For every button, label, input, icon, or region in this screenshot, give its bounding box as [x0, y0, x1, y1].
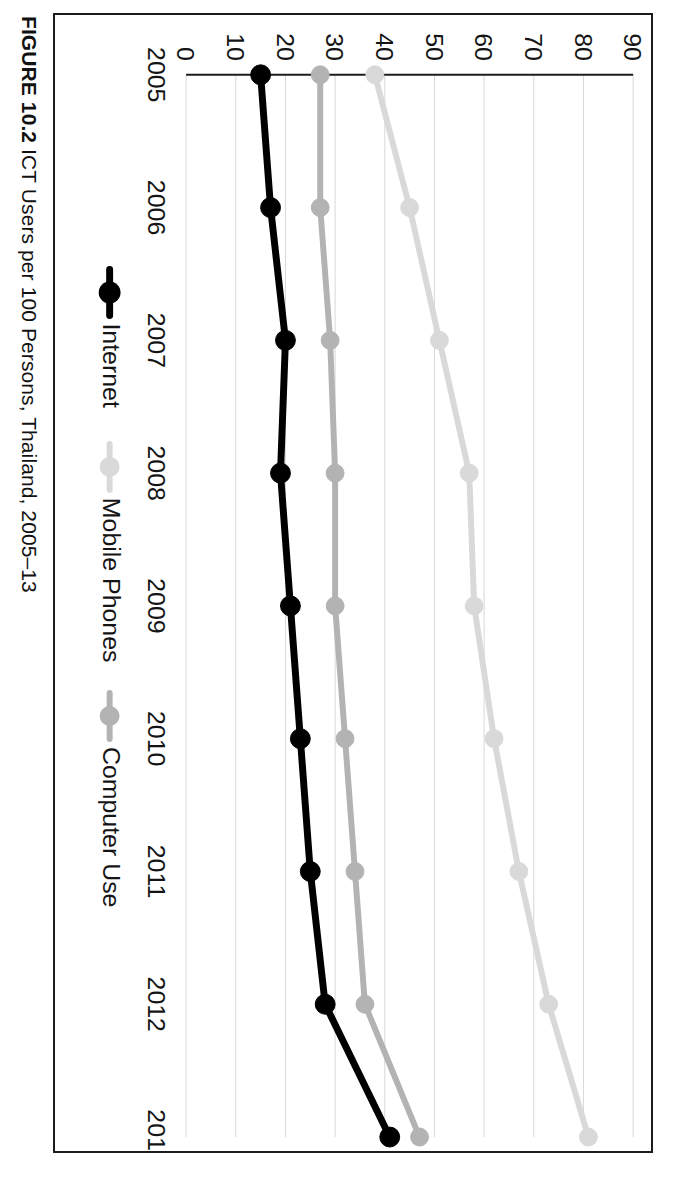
- y-tick-label: 80: [570, 33, 598, 61]
- x-tick-label: 2013: [143, 1109, 171, 1151]
- data-point: [290, 729, 310, 749]
- legend-label: Computer Use: [98, 747, 126, 908]
- data-point: [311, 199, 329, 217]
- figure-caption: FIGURE 10.2 ICT Users per 100 Persons, T…: [17, 16, 41, 1166]
- series-internet: [251, 65, 400, 1147]
- y-tick-label: 40: [371, 33, 399, 61]
- data-point: [271, 463, 291, 483]
- x-tick-labels: 200520062007200820092010201120122013: [143, 47, 171, 1151]
- data-point: [579, 1128, 597, 1146]
- x-tick-label: 2008: [143, 445, 171, 500]
- data-point: [366, 66, 384, 84]
- data-point: [411, 1128, 429, 1146]
- line-chart: 200520062007200820092010201120122013 010…: [55, 15, 651, 1151]
- data-point: [460, 464, 478, 482]
- figure-rotator: 200520062007200820092010201120122013 010…: [0, 0, 675, 1191]
- series-mobile-phones: [366, 66, 597, 1146]
- data-point: [380, 1127, 400, 1147]
- y-tick-label: 0: [172, 47, 200, 61]
- legend-item-mobile-phones: Mobile Phones: [98, 444, 126, 663]
- chart-legend: InternetMobile PhonesComputer Use: [98, 270, 126, 908]
- x-tick-label: 2012: [143, 977, 171, 1032]
- data-point: [321, 331, 339, 349]
- legend-swatch-marker: [100, 457, 120, 477]
- data-point: [326, 597, 344, 615]
- data-point: [251, 65, 271, 85]
- x-tick-label: 2010: [143, 711, 171, 766]
- data-point: [276, 330, 296, 350]
- data-point: [465, 597, 483, 615]
- x-tick-label: 2007: [143, 313, 171, 368]
- y-tick-label: 70: [520, 33, 548, 61]
- figure-caption-text: ICT Users per 100 Persons, Thailand, 200…: [18, 149, 41, 593]
- data-point: [300, 862, 320, 882]
- series-computer-use: [311, 66, 428, 1146]
- data-point: [326, 464, 344, 482]
- series-layer: [251, 65, 598, 1147]
- legend-label: Mobile Phones: [98, 498, 126, 663]
- data-point: [311, 66, 329, 84]
- plot-area: 200520062007200820092010201120122013 010…: [55, 15, 651, 1151]
- data-point: [356, 995, 374, 1013]
- y-tick-label: 10: [222, 33, 250, 61]
- figure-caption-label: FIGURE 10.2: [18, 16, 41, 143]
- legend-swatch-marker: [99, 282, 121, 304]
- y-tick-labels: 0102030405060708090: [172, 33, 647, 61]
- data-point: [540, 995, 558, 1013]
- data-point: [336, 730, 354, 748]
- data-point: [315, 994, 335, 1014]
- legend-label: Internet: [98, 323, 126, 408]
- gridlines: [186, 75, 633, 1137]
- data-point: [510, 863, 528, 881]
- legend-item-computer-use: Computer Use: [98, 693, 126, 907]
- y-tick-label: 30: [321, 33, 349, 61]
- chart-frame: 200520062007200820092010201120122013 010…: [53, 13, 653, 1153]
- data-point: [261, 198, 281, 218]
- y-tick-label: 60: [470, 33, 498, 61]
- legend-swatch-marker: [100, 706, 120, 726]
- data-point: [430, 331, 448, 349]
- y-tick-label: 90: [619, 33, 647, 61]
- x-tick-label: 2009: [143, 578, 171, 633]
- x-tick-label: 2005: [143, 47, 171, 102]
- legend-item-internet: Internet: [98, 270, 126, 408]
- x-tick-label: 2006: [143, 180, 171, 235]
- data-point: [485, 730, 503, 748]
- figure: 200520062007200820092010201120122013 010…: [0, 0, 675, 1191]
- y-tick-label: 50: [421, 33, 449, 61]
- x-tick-label: 2011: [143, 845, 171, 899]
- y-tick-label: 20: [272, 33, 300, 61]
- data-point: [346, 863, 364, 881]
- data-point: [280, 596, 300, 616]
- data-point: [401, 199, 419, 217]
